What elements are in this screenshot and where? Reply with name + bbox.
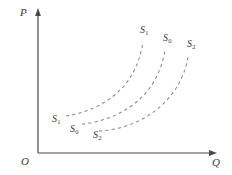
curve-label-s1-start: S1 xyxy=(52,114,60,124)
y-axis-label: P xyxy=(20,7,27,18)
origin-label: O xyxy=(21,156,29,167)
diagram-canvas xyxy=(0,0,232,175)
supply-curve-figure: P O Q S1S1S0S0S2S2 xyxy=(0,0,232,175)
curve-label-subscript: 1 xyxy=(145,29,148,36)
curve-label-s2-end: S2 xyxy=(187,39,195,49)
supply-curve-s1 xyxy=(66,42,143,116)
curve-label-s2-start: S2 xyxy=(93,130,101,140)
supply-curve-s2 xyxy=(99,57,188,131)
curve-label-subscript: 1 xyxy=(57,118,60,125)
curve-label-s0-start: S0 xyxy=(70,124,78,134)
x-axis-label: Q xyxy=(212,157,220,168)
curve-label-subscript: 0 xyxy=(168,37,171,44)
curve-label-subscript: 0 xyxy=(75,128,78,135)
axes-group xyxy=(35,8,217,156)
curve-label-subscript: 2 xyxy=(192,43,195,50)
curve-label-s0-end: S0 xyxy=(163,33,171,43)
supply-curves-group xyxy=(66,42,188,131)
curve-label-subscript: 2 xyxy=(98,134,101,141)
curve-label-s1-end: S1 xyxy=(140,25,148,35)
y-axis-arrowhead xyxy=(35,8,41,16)
